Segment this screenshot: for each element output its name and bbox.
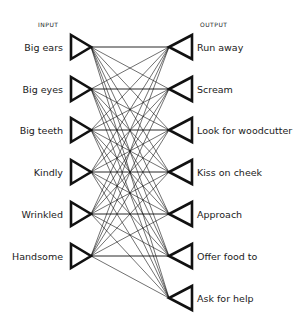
output-unit-triangle-icon: [169, 244, 192, 268]
output-label: Run away: [197, 42, 243, 53]
input-unit-triangle-icon: [71, 202, 91, 226]
output-unit-triangle-icon: [169, 160, 192, 184]
input-unit-triangle-icon: [71, 244, 91, 268]
output-label: Kiss on cheek: [197, 167, 262, 178]
connection-lines: [91, 47, 169, 298]
output-label: Scream: [197, 84, 233, 95]
input-unit-triangle-icon: [71, 77, 91, 101]
output-label: Approach: [197, 209, 242, 220]
input-label: Big teeth: [20, 125, 63, 136]
input-unit-triangle-icon: [71, 35, 91, 59]
input-unit-triangle-icon: [71, 160, 91, 184]
input-label: Big eyes: [23, 84, 63, 95]
output-unit-triangle-icon: [169, 35, 192, 59]
output-label: Ask for help: [197, 293, 254, 304]
output-label: Offer food to: [197, 251, 257, 262]
input-label: Wrinkled: [21, 209, 63, 220]
output-unit-triangle-icon: [169, 118, 192, 142]
input-label: Kindly: [34, 167, 63, 178]
output-unit-triangle-icon: [169, 286, 192, 310]
output-label: Look for woodcutter: [197, 125, 292, 136]
connection-line: [91, 256, 169, 298]
input-label: Handsome: [12, 251, 63, 262]
output-unit-triangle-icon: [169, 77, 192, 101]
output-unit-triangle-icon: [169, 202, 192, 226]
input-label: Big ears: [24, 42, 63, 53]
unit-triangles: [71, 35, 192, 310]
input-unit-triangle-icon: [71, 118, 91, 142]
